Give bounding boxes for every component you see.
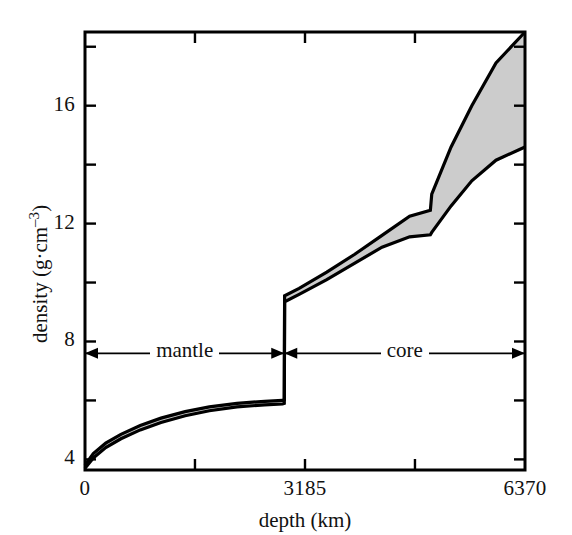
y-tick-label-16: 16 [37, 92, 75, 117]
tick-marks [85, 32, 525, 470]
region-label-mantle: mantle [150, 338, 219, 363]
density-depth-figure: 16 12 8 4 0 3185 6370 depth (km) density… [0, 0, 572, 535]
density-curves [85, 32, 525, 468]
x-tick-label-3185: 3185 [260, 476, 350, 501]
region-arrowhead-mantle-end [271, 348, 284, 359]
y-axis-title: density (g·cm–3) [28, 205, 53, 343]
upper-bound-curve [85, 32, 525, 465]
chart-plot-area [0, 0, 572, 535]
y-axis-title-base: density (g·cm [28, 227, 52, 343]
y-axis-title-exponent: –3 [26, 212, 42, 227]
x-tick-label-0: 0 [40, 476, 130, 501]
region-arrowhead-core-end [512, 348, 525, 359]
region-arrowhead-mantle-start [85, 348, 98, 359]
region-arrowhead-core-start [284, 348, 297, 359]
x-axis-title: depth (km) [245, 508, 365, 533]
region-label-core: core [381, 338, 429, 363]
y-tick-label-4: 4 [37, 445, 75, 470]
x-tick-label-6370: 6370 [480, 476, 570, 501]
y-axis-title-close: ) [28, 205, 52, 212]
shaded-uncertainty-band [85, 32, 525, 468]
axes-frame [85, 32, 525, 470]
